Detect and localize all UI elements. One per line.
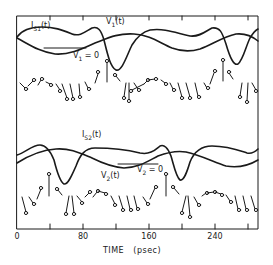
x-tick-label-240: 240 [207,233,222,241]
figure-canvas [0,0,273,265]
x-axis-title: TIME (psec) [103,247,161,255]
bottom-zero-label: V2 = 0 [137,166,163,176]
bottom-axis-ticks [50,224,248,229]
bottom-voltage-label: V2(t) [101,172,120,182]
top-current-subscript: S1 [33,25,41,32]
top-pendulum-indicators [20,58,258,103]
x-axis-title-text: TIME [103,246,124,255]
bottom-pendulum-indicators [22,172,258,218]
x-tick-label-160: 160 [141,233,156,241]
x-tick-label-0: 0 [14,233,19,241]
bottom-voltage-arg: (t) [110,171,119,180]
bottom-current-arg: (t) [92,130,101,139]
x-axis-unit: (psec) [133,246,161,255]
top-axis-ticks [50,16,248,20]
x-tick-label-80: 80 [78,233,88,241]
top-voltage-label: V1(t) [106,18,125,28]
bottom-zero-eq: = 0 [146,165,163,174]
bottom-current-subscript: S2 [84,134,92,141]
top-zero-eq: = 0 [82,51,99,60]
top-current-arg: (t) [41,21,50,30]
top-zero-label: V1 = 0 [73,52,99,62]
top-current-curve [17,27,258,70]
top-voltage-arg: (t) [115,17,124,26]
top-current-label: IS1(t) [31,22,50,32]
bottom-current-label: IS2(t) [82,131,101,141]
